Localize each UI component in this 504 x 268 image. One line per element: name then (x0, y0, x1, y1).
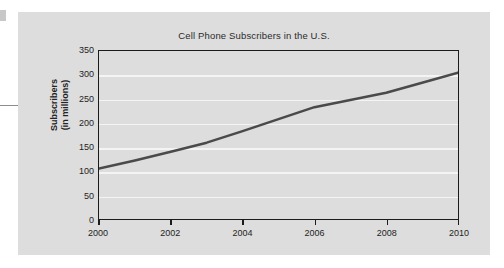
chart-title: Cell Phone Subscribers in the U.S. (18, 30, 490, 41)
x-axis-tick-label: 2002 (146, 228, 194, 238)
plot-area (98, 50, 459, 220)
x-axis-tick-label: 2010 (435, 228, 483, 238)
x-axis-tick-mark (387, 220, 389, 225)
x-axis-tick-label: 2006 (291, 228, 339, 238)
x-axis-tick-marks (98, 220, 459, 226)
x-axis-tick-label: 2004 (218, 228, 266, 238)
x-axis-tick-mark (315, 220, 317, 225)
y-axis-tick-labels: 050100150200250300350 (62, 50, 94, 220)
x-axis-tick-mark (170, 220, 172, 225)
left-margin-rule (0, 105, 19, 106)
y-axis-tick-label: 150 (64, 142, 94, 152)
x-axis-tick-mark (458, 220, 460, 225)
y-axis-tick-label: 200 (64, 118, 94, 128)
y-axis-title-line1: Subscribers (49, 79, 60, 131)
series-line-cell-phone-subscribers (99, 73, 458, 169)
y-axis-tick-label: 0 (64, 215, 94, 225)
cropped-glyph-fragment (0, 10, 6, 21)
y-axis-tick-label: 300 (64, 69, 94, 79)
y-axis-tick-label: 350 (64, 45, 94, 55)
y-axis-tick-label: 250 (64, 94, 94, 104)
x-axis-tick-labels: 200020022004200620082010 (98, 228, 459, 242)
x-axis-tick-mark (242, 220, 244, 225)
x-axis-tick-mark (98, 220, 100, 225)
x-axis-tick-label: 2000 (74, 228, 122, 238)
y-axis-tick-label: 50 (64, 191, 94, 201)
x-axis-tick-label: 2008 (363, 228, 411, 238)
y-axis-tick-label: 100 (64, 166, 94, 176)
data-line-svg (99, 51, 458, 219)
chart-figure-panel: Cell Phone Subscribers in the U.S. Subsc… (18, 12, 490, 255)
